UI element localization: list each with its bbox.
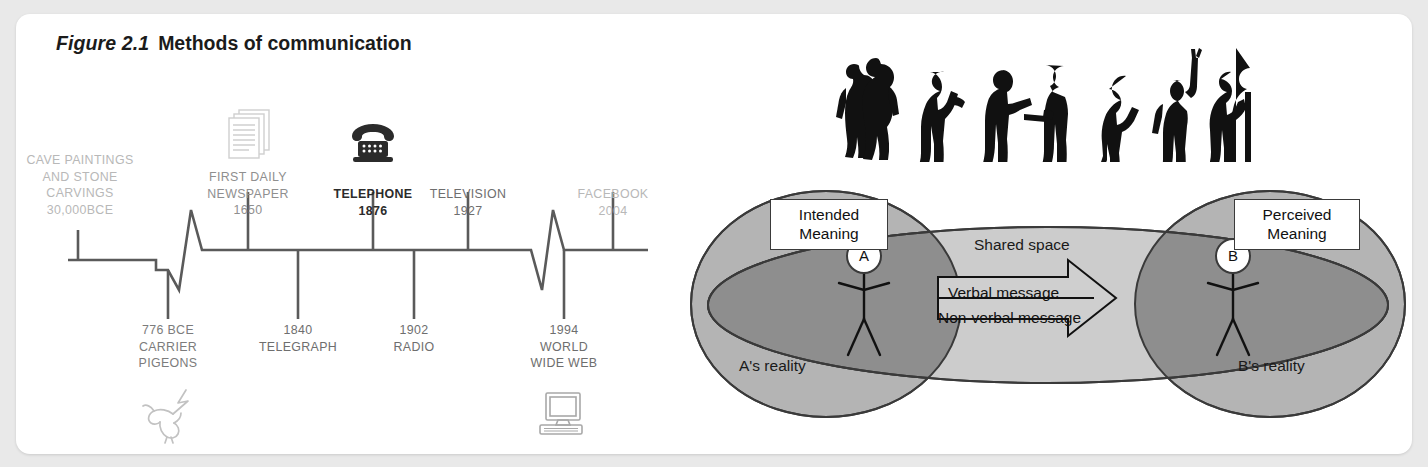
bowing-woman-silhouette [1094,76,1139,162]
hugging-pair-silhouette [836,58,899,160]
timeline-event-carrier-pigeons: 776 BCE CARRIER PIGEONS [108,322,228,372]
verbal-message-label: Verbal message [948,284,1059,302]
figure-caption: Methods of communication [158,32,412,54]
communication-model-diagram: A B Intended Meaning Perceived Meaning S… [676,14,1412,454]
bowing-person-silhouette [918,72,965,162]
figure-number: Figure 2.1 [56,32,149,54]
timeline-event-world-wide-web: 1994 WORLD WIDE WEB [504,322,624,372]
timeline-event-television: TELEVISION 1927 [408,186,528,219]
silhouette-group [826,42,1256,162]
timeline-event-radio: 1902 RADIO [354,322,474,355]
timeline-panel: CAVE PAINTINGS AND STONE CARVINGS 30,000… [16,74,696,454]
b-reality-label: B's reality [1238,357,1305,375]
dove-icon [140,384,200,446]
shared-space-label: Shared space [974,236,1070,254]
timeline-event-facebook: FACEBOOK 2004 [554,186,672,219]
figure-card: Figure 2.1Methods of communication [16,14,1412,454]
computer-icon [534,390,592,442]
timeline-event-telegraph: 1840 TELEGRAPH [238,322,358,355]
figure-title: Figure 2.1Methods of communication [56,32,412,55]
telephone-icon [347,120,399,166]
a-reality-label: A's reality [739,357,806,375]
nonverbal-message-label: Non-verbal message [938,309,1081,327]
embracing-pair-silhouette [1208,48,1251,162]
intended-meaning-box: Intended Meaning [770,199,888,250]
handshake-pair-silhouette [983,65,1068,162]
newspaper-icon [223,106,275,164]
waving-person-silhouette [1152,48,1202,162]
perceived-meaning-box: Perceived Meaning [1234,199,1360,250]
timeline-event-first-daily-newspaper: FIRST DAILY NEWSPAPER 1650 [186,169,310,219]
timeline-event-cave-paintings: CAVE PAINTINGS AND STONE CARVINGS 30,000… [16,152,144,218]
